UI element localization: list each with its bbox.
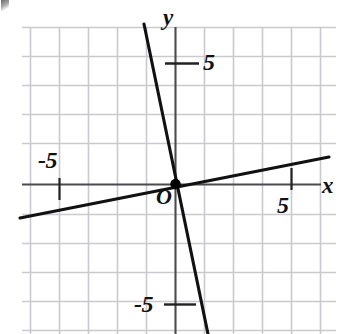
- y-tick-label-negative-5: -5: [134, 292, 153, 316]
- grid-horizontal-lines: [22, 28, 336, 331]
- x-axis-label: x: [322, 174, 334, 197]
- axes: [22, 27, 321, 334]
- x-tick-label-positive-5: 5: [277, 193, 289, 217]
- y-tick-label-positive-5: 5: [203, 50, 215, 74]
- origin-label: O: [156, 186, 172, 208]
- coordinate-plane-figure: y x O -5 5 5 -5: [0, 0, 340, 334]
- y-axis-label: y: [163, 6, 173, 29]
- x-tick-label-negative-5: -5: [38, 148, 57, 172]
